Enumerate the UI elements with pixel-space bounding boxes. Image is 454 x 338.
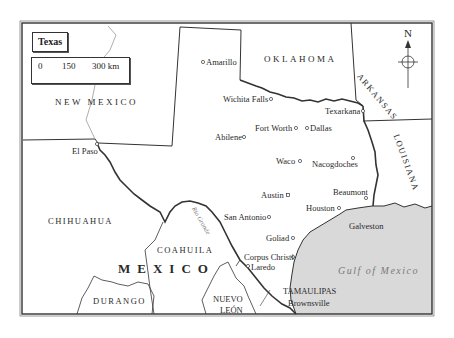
texas-panhandle-border (180, 27, 241, 80)
oklahoma-arkansas-border (351, 23, 363, 106)
city-beaumont: Beaumont (333, 188, 368, 197)
city-laredo: Laredo (251, 263, 275, 272)
city-waco: Waco (276, 157, 295, 166)
city-dallas: Dallas (310, 124, 332, 133)
city-texarkana: Texarkana (325, 107, 360, 116)
region-coahuila: COAHUILA (157, 246, 213, 255)
tamaulipas-border (236, 260, 240, 266)
region-tamaulipas: TAMAULIPAS (283, 287, 336, 296)
scale-tick-300: 300 km (92, 61, 119, 71)
compass-icon (398, 40, 418, 88)
durango-border (77, 276, 154, 314)
arkansas-louisiana-border (363, 119, 432, 121)
city-wichita-falls: Wichita Falls (223, 95, 268, 104)
rio-grande (97, 143, 296, 314)
region-chihuahua: CHIHUAHUA (48, 217, 113, 226)
city-brownsville: Brownsville (288, 299, 330, 308)
region-durango: DURANGO (93, 297, 146, 306)
city-san-antonio: San Antonio (224, 213, 266, 222)
city-nacogdoches: Nacogdoches (312, 160, 358, 169)
region-new-mexico: NEW MEXICO (55, 98, 138, 107)
region-nuevo-leon-line1: NUEVO (213, 295, 243, 304)
region-nuevo-leon-line2: LEÓN (220, 306, 243, 315)
scale-box: 0 150 300 km (31, 57, 130, 84)
city-amarillo: Amarillo (206, 58, 237, 67)
scale-tick-150: 150 (62, 61, 76, 71)
city-el-paso: El Paso (72, 147, 98, 156)
city-abilene: Abilene (215, 133, 242, 142)
city-corpus-christi: Corpus Christi (244, 253, 294, 262)
scale-tick-0: 0 (38, 61, 43, 71)
city-fort-worth: Fort Worth (255, 124, 292, 133)
texas-map (0, 0, 454, 338)
city-goliad: Goliad (266, 234, 289, 243)
city-austin: Austin (261, 191, 284, 200)
tamaulipas-leader (260, 290, 270, 306)
map-title: Texas (32, 32, 68, 52)
city-houston: Houston (306, 204, 335, 213)
compass-north-label: N (404, 28, 412, 39)
country-mexico: MEXICO (118, 262, 215, 275)
city-galveston: Galveston (349, 222, 383, 231)
gulf-of-mexico-label: Gulf of Mexico (338, 266, 419, 276)
region-oklahoma: OKLAHOMA (264, 55, 337, 64)
